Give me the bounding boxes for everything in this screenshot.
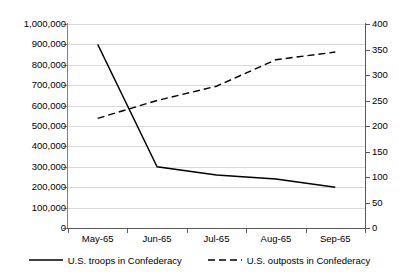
legend-label-troops: U.S. troops in Confederacy xyxy=(68,255,182,266)
legend-item-outposts: U.S. outposts in Confederacy xyxy=(208,255,371,266)
series-line-outposts xyxy=(98,52,336,118)
legend-swatch-solid xyxy=(29,255,63,265)
legend-swatch-dashed xyxy=(208,255,242,265)
chart-container: 0100,000200,000300,000400,000500,000600,… xyxy=(0,0,399,279)
series-line-troops xyxy=(98,44,336,187)
series-layer xyxy=(0,0,399,279)
legend-item-troops: U.S. troops in Confederacy xyxy=(29,255,182,266)
legend-label-outposts: U.S. outposts in Confederacy xyxy=(247,255,371,266)
chart-legend: U.S. troops in Confederacy U.S. outposts… xyxy=(0,250,399,270)
